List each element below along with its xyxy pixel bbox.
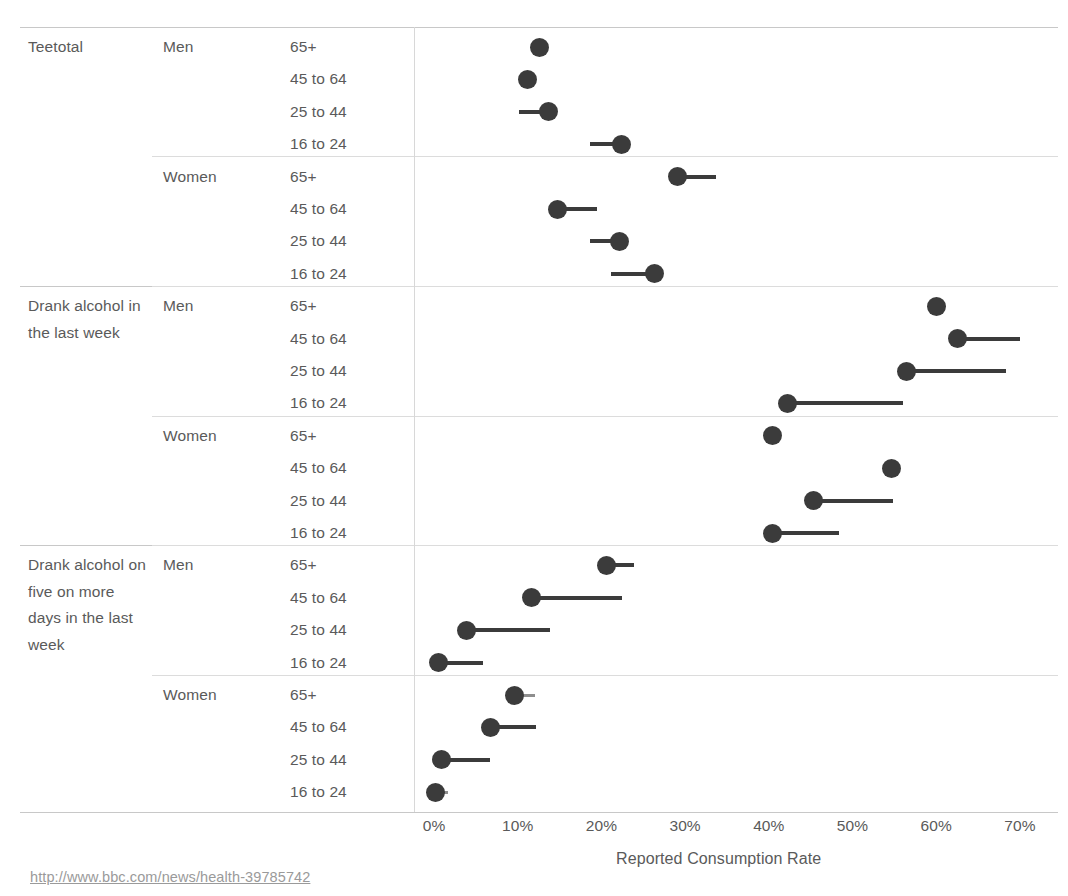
gender-rule-0 — [152, 156, 1058, 157]
age-label-3: 16 to 24 — [290, 135, 400, 153]
category-label-1: Drank alcohol in the last week — [28, 293, 148, 346]
data-point-7[interactable] — [645, 264, 664, 283]
data-point-9[interactable] — [948, 329, 967, 348]
age-label-20: 65+ — [290, 686, 400, 704]
data-point-23[interactable] — [426, 783, 445, 802]
data-point-19[interactable] — [429, 653, 448, 672]
age-label-1: 45 to 64 — [290, 70, 400, 88]
age-label-13: 45 to 64 — [290, 459, 400, 477]
age-label-22: 25 to 44 — [290, 751, 400, 769]
gender-label-2-0: Men — [163, 556, 253, 574]
x-tick-20: 20% — [571, 817, 631, 835]
x-tick-50: 50% — [823, 817, 883, 835]
gender-label-1-0: Men — [163, 297, 253, 315]
gender-rule-1 — [152, 286, 1058, 287]
data-point-20[interactable] — [505, 686, 524, 705]
data-point-2[interactable] — [539, 102, 558, 121]
age-label-7: 16 to 24 — [290, 265, 400, 283]
data-point-8[interactable] — [927, 297, 946, 316]
age-label-2: 25 to 44 — [290, 103, 400, 121]
range-line-14 — [813, 499, 893, 503]
x-axis-title: Reported Consumption Rate — [616, 850, 821, 868]
data-point-21[interactable] — [481, 718, 500, 737]
age-label-4: 65+ — [290, 168, 400, 186]
data-point-17[interactable] — [522, 588, 541, 607]
range-line-17 — [531, 596, 622, 600]
group-rule-top — [20, 27, 1058, 28]
range-line-11 — [787, 401, 903, 405]
age-label-14: 25 to 44 — [290, 492, 400, 510]
age-label-17: 45 to 64 — [290, 589, 400, 607]
age-label-21: 45 to 64 — [290, 718, 400, 736]
data-point-1[interactable] — [518, 70, 537, 89]
data-point-5[interactable] — [548, 200, 567, 219]
data-point-11[interactable] — [778, 394, 797, 413]
data-point-10[interactable] — [897, 362, 916, 381]
age-label-12: 65+ — [290, 427, 400, 445]
age-label-9: 45 to 64 — [290, 330, 400, 348]
age-label-10: 25 to 44 — [290, 362, 400, 380]
source-url-link[interactable]: http://www.bbc.com/news/health-39785742 — [30, 869, 310, 885]
data-point-16[interactable] — [597, 556, 616, 575]
age-label-19: 16 to 24 — [290, 654, 400, 672]
category-label-2: Drank alcohol on five on more days in th… — [28, 552, 148, 658]
data-point-15[interactable] — [763, 524, 782, 543]
category-label-0: Teetotal — [28, 34, 148, 61]
data-point-13[interactable] — [882, 459, 901, 478]
data-point-22[interactable] — [432, 750, 451, 769]
range-line-18 — [467, 628, 550, 632]
age-label-8: 65+ — [290, 297, 400, 315]
data-point-18[interactable] — [457, 621, 476, 640]
age-label-16: 65+ — [290, 556, 400, 574]
gender-label-1-1: Women — [163, 427, 253, 445]
x-tick-0: 0% — [404, 817, 464, 835]
range-line-10 — [906, 369, 1006, 373]
data-point-3[interactable] — [612, 135, 631, 154]
gender-label-2-1: Women — [163, 686, 253, 704]
age-label-0: 65+ — [290, 38, 400, 56]
age-label-6: 25 to 44 — [290, 232, 400, 250]
age-label-5: 45 to 64 — [290, 200, 400, 218]
x-tick-60: 60% — [906, 817, 966, 835]
data-point-0[interactable] — [530, 38, 549, 57]
x-tick-30: 30% — [655, 817, 715, 835]
data-point-14[interactable] — [804, 491, 823, 510]
gender-rule-4 — [152, 675, 1058, 676]
data-point-12[interactable] — [763, 426, 782, 445]
x-tick-40: 40% — [739, 817, 799, 835]
x-tick-70: 70% — [990, 817, 1050, 835]
age-label-23: 16 to 24 — [290, 783, 400, 801]
group-rule-bottom — [20, 812, 1058, 813]
x-tick-10: 10% — [488, 817, 548, 835]
dot-plot-chart: TeetotalMen65+45 to 6425 to 4416 to 24Wo… — [0, 0, 1068, 896]
plot-area — [0, 0, 1068, 896]
axis-zero-line — [414, 27, 415, 813]
age-label-11: 16 to 24 — [290, 394, 400, 412]
gender-label-0-0: Men — [163, 38, 253, 56]
age-label-18: 25 to 44 — [290, 621, 400, 639]
gender-rule-2 — [152, 416, 1058, 417]
range-line-15 — [773, 531, 839, 535]
gender-rule-3 — [152, 545, 1058, 546]
range-line-9 — [958, 337, 1020, 341]
age-label-15: 16 to 24 — [290, 524, 400, 542]
data-point-4[interactable] — [668, 167, 687, 186]
data-point-6[interactable] — [610, 232, 629, 251]
gender-label-0-1: Women — [163, 168, 253, 186]
